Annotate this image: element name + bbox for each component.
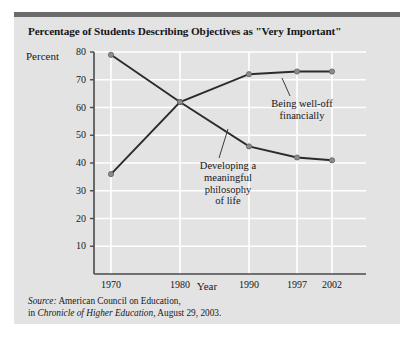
- plot-area: 80 70 60 50 40 30 20 10 1970 1980 1990 1…: [14, 12, 400, 324]
- source-organization: American Council on Education,: [57, 296, 181, 306]
- annotation-philosophy-line3: philosophy: [182, 184, 274, 196]
- source-in-prefix: in: [28, 308, 38, 318]
- source-note-line2: in Chronicle of Higher Education, August…: [28, 307, 368, 319]
- source-publication: Chronicle of Higher Education: [38, 308, 154, 318]
- annotation-philosophy-line1: Developing a: [182, 160, 274, 172]
- annotation-welloff-line2: financially: [250, 110, 354, 122]
- y-tick-label-70: 70: [64, 74, 86, 85]
- annotation-philosophy-line4: of life: [182, 195, 274, 207]
- y-tick-label-40: 40: [64, 157, 86, 168]
- y-tick-label-50: 50: [64, 129, 86, 140]
- annotation-philosophy-line2: meaningful: [182, 172, 274, 184]
- source-date: , August 29, 2003.: [153, 308, 221, 318]
- annotation-being-well-off: Being well-off financially: [250, 98, 354, 122]
- source-label: Source:: [28, 296, 57, 306]
- annotation-welloff-line1: Being well-off: [250, 98, 354, 110]
- source-note: Source: American Council on Education, i…: [28, 295, 368, 320]
- source-note-line1: Source: American Council on Education,: [28, 295, 368, 307]
- y-tick-label-80: 80: [64, 46, 86, 57]
- annotation-developing-philosophy: Developing a meaningful philosophy of li…: [182, 160, 274, 207]
- figure-panel: Percentage of Students Describing Object…: [14, 12, 400, 324]
- y-tick-label-20: 20: [64, 213, 86, 224]
- y-tick-label-60: 60: [64, 102, 86, 113]
- x-axis-title: Year: [14, 280, 400, 292]
- y-tick-label-30: 30: [64, 185, 86, 196]
- y-tick-label-10: 10: [64, 240, 86, 251]
